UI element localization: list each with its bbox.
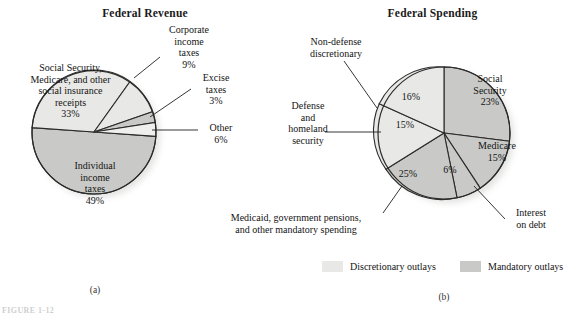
legend-label-mandatory: Mandatory outlays bbox=[488, 261, 563, 272]
label-defense-homeland-security: Defense and homeland security bbox=[278, 100, 338, 146]
chart-legend: Discretionary outlays Mandatory outlays bbox=[300, 258, 570, 278]
label-other-revenue: Other 6% bbox=[199, 122, 243, 145]
leader-non-defense bbox=[344, 61, 377, 108]
label-excise-taxes: Excise taxes 3% bbox=[192, 72, 240, 107]
value-non-defense-discretionary: 16% bbox=[396, 91, 426, 103]
figure-container: Federal Revenue Federal Spending bbox=[0, 0, 575, 316]
value-interest-on-debt: 6% bbox=[436, 164, 464, 176]
legend-swatch-mandatory bbox=[460, 261, 481, 272]
label-medicaid-other-mandatory: Medicaid, government pensions, and other… bbox=[206, 212, 386, 235]
label-medicare: Medicare 15% bbox=[466, 140, 528, 163]
label-interest-on-debt: Interest on debt bbox=[503, 207, 559, 230]
value-medicaid-other-mandatory: 25% bbox=[393, 168, 423, 180]
figure-caption: FIGURE 1-12 bbox=[2, 306, 54, 315]
legend-item-mandatory[interactable]: Mandatory outlays bbox=[460, 261, 563, 272]
legend-label-discretionary: Discretionary outlays bbox=[350, 261, 436, 272]
label-social-security: Social Security 23% bbox=[459, 73, 521, 108]
label-corporate-income-taxes: Corporate income taxes 9% bbox=[158, 24, 220, 70]
label-individual-income-taxes: Individual income taxes 49% bbox=[50, 160, 140, 206]
legend-item-discretionary[interactable]: Discretionary outlays bbox=[322, 261, 436, 272]
label-non-defense-discretionary: Non-defense discretionary bbox=[296, 36, 376, 59]
leader-interest bbox=[474, 186, 505, 219]
leader-excise bbox=[150, 89, 191, 117]
panel-letter-a: (a) bbox=[75, 285, 115, 295]
leader-corporate bbox=[134, 57, 160, 78]
label-social-insurance-receipts: Social Security, Medicare, and other soc… bbox=[18, 62, 123, 120]
value-defense-homeland-security: 15% bbox=[390, 119, 420, 131]
leader-medicaid bbox=[383, 186, 402, 213]
legend-swatch-discretionary bbox=[322, 261, 343, 272]
panel-letter-b: (b) bbox=[424, 292, 464, 302]
